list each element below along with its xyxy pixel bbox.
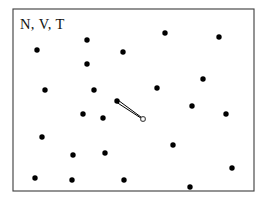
- particle-dot: [162, 30, 167, 35]
- particle-dot: [223, 111, 228, 116]
- nvt-ensemble-figure: N, V, T: [0, 0, 265, 207]
- particle-dot: [34, 47, 39, 52]
- particle-dot: [229, 165, 234, 170]
- particle-dot: [170, 142, 175, 147]
- particle-dot: [84, 61, 89, 66]
- particle-dot: [32, 175, 37, 180]
- particle-dot: [80, 111, 85, 116]
- ensemble-label: N, V, T: [20, 16, 65, 32]
- particle-dot: [189, 103, 194, 108]
- particle-dot: [216, 34, 221, 39]
- particle-dot: [154, 85, 159, 90]
- particle-dot: [100, 115, 105, 120]
- particle-dot: [69, 177, 74, 182]
- particle-dot: [42, 87, 47, 92]
- particle-dot: [120, 49, 125, 54]
- particle-dot: [39, 134, 44, 139]
- particle-dot: [200, 76, 205, 81]
- particle-dot: [84, 37, 89, 42]
- particle-dot: [91, 87, 96, 92]
- velocity-arrow-endpoint-marker: [141, 117, 146, 122]
- particle-dot: [70, 152, 75, 157]
- particle-dot: [121, 177, 126, 182]
- particle-dot: [187, 184, 192, 189]
- ensemble-diagram-canvas: N, V, T: [0, 0, 265, 207]
- particle-dot: [102, 150, 107, 155]
